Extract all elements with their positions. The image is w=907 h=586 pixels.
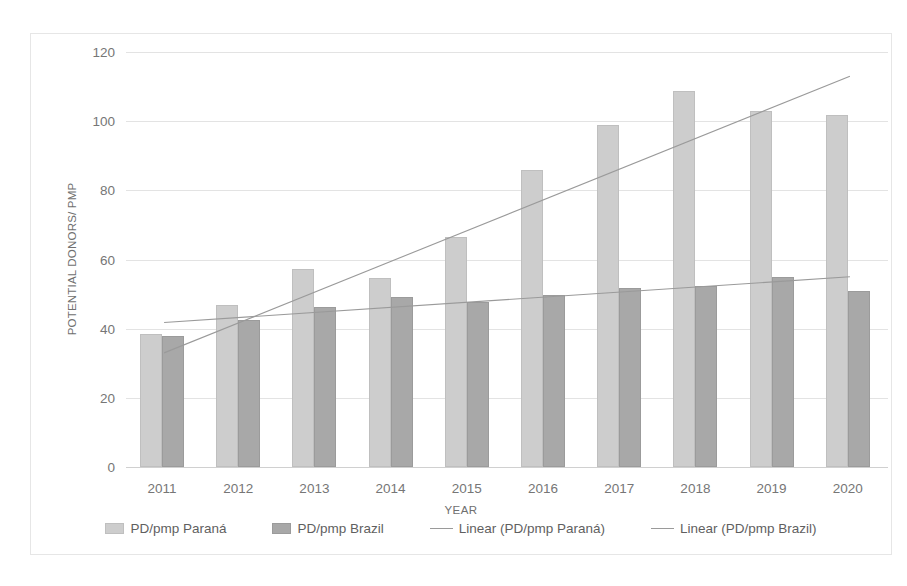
x-tick-label-2015: 2015 bbox=[452, 481, 482, 496]
y-tick-label-20: 20 bbox=[100, 390, 115, 405]
bar-brazil-2016[interactable] bbox=[543, 295, 565, 467]
x-tick-label-2014: 2014 bbox=[376, 481, 406, 496]
x-tick-label-2017: 2017 bbox=[604, 481, 634, 496]
y-tick-label-40: 40 bbox=[100, 321, 115, 336]
bar-brazil-2013[interactable] bbox=[314, 307, 336, 467]
plot-area: 020406080100120 201120122013201420152016… bbox=[126, 52, 888, 467]
bar-brazil-2011[interactable] bbox=[162, 336, 184, 467]
legend-label: Linear (PD/pmp Brazil) bbox=[680, 521, 817, 536]
bar-brazil-2019[interactable] bbox=[772, 277, 794, 467]
category-group-2015: 2015 bbox=[431, 52, 507, 467]
x-tick-label-2018: 2018 bbox=[680, 481, 710, 496]
category-group-2016: 2016 bbox=[507, 52, 583, 467]
bar-parana-2013[interactable] bbox=[292, 269, 314, 468]
bar-parana-2014[interactable] bbox=[369, 278, 391, 467]
bar-swatch-light-icon bbox=[105, 523, 124, 534]
x-tick-label-2019: 2019 bbox=[757, 481, 787, 496]
x-tick-label-2012: 2012 bbox=[223, 481, 253, 496]
chart-legend: PD/pmp ParanáPD/pmp BrazilLinear (PD/pmp… bbox=[31, 521, 891, 536]
bar-brazil-2014[interactable] bbox=[391, 297, 413, 467]
category-group-2020: 2020 bbox=[812, 52, 888, 467]
category-group-2012: 2012 bbox=[202, 52, 278, 467]
legend-label: Linear (PD/pmp Paraná) bbox=[459, 521, 605, 536]
bar-brazil-2015[interactable] bbox=[467, 302, 489, 467]
x-tick-label-2016: 2016 bbox=[528, 481, 558, 496]
bar-brazil-2020[interactable] bbox=[848, 291, 870, 467]
x-tick-label-2013: 2013 bbox=[299, 481, 329, 496]
category-group-2018: 2018 bbox=[659, 52, 735, 467]
x-tick-label-2011: 2011 bbox=[147, 481, 176, 496]
y-tick-label-80: 80 bbox=[100, 183, 115, 198]
legend-label: PD/pmp Paraná bbox=[130, 521, 226, 536]
y-tick-label-60: 60 bbox=[100, 252, 115, 267]
category-group-2019: 2019 bbox=[736, 52, 812, 467]
legend-item-3[interactable]: Linear (PD/pmp Brazil) bbox=[651, 521, 817, 536]
category-group-2013: 2013 bbox=[278, 52, 354, 467]
line-swatch-icon bbox=[651, 528, 674, 529]
x-tick-label-2020: 2020 bbox=[833, 481, 863, 496]
bar-brazil-2018[interactable] bbox=[695, 286, 717, 467]
y-tick-label-100: 100 bbox=[92, 114, 115, 129]
legend-item-0[interactable]: PD/pmp Paraná bbox=[105, 521, 226, 536]
category-group-2014: 2014 bbox=[355, 52, 431, 467]
chart-container: POTENTIAL DONORS/ PMP 020406080100120 20… bbox=[30, 33, 892, 555]
bar-parana-2019[interactable] bbox=[750, 111, 772, 467]
bar-brazil-2017[interactable] bbox=[619, 288, 641, 467]
bar-parana-2012[interactable] bbox=[216, 305, 238, 467]
bar-swatch-dark-icon bbox=[272, 523, 291, 534]
bar-parana-2016[interactable] bbox=[521, 170, 543, 467]
bar-parana-2015[interactable] bbox=[445, 237, 467, 467]
legend-item-1[interactable]: PD/pmp Brazil bbox=[272, 521, 383, 536]
x-axis-title: YEAR bbox=[31, 504, 891, 516]
gridline-0 bbox=[126, 467, 888, 468]
y-tick-label-0: 0 bbox=[107, 460, 115, 475]
legend-label: PD/pmp Brazil bbox=[297, 521, 383, 536]
category-group-2011: 2011 bbox=[126, 52, 202, 467]
bar-brazil-2012[interactable] bbox=[238, 320, 260, 467]
line-swatch-icon bbox=[430, 528, 453, 529]
bar-parana-2020[interactable] bbox=[826, 115, 848, 467]
bar-parana-2011[interactable] bbox=[140, 334, 162, 467]
category-group-2017: 2017 bbox=[583, 52, 659, 467]
bar-parana-2017[interactable] bbox=[597, 125, 619, 467]
y-tick-label-120: 120 bbox=[92, 45, 115, 60]
legend-item-2[interactable]: Linear (PD/pmp Paraná) bbox=[430, 521, 605, 536]
y-axis-title: POTENTIAL DONORS/ PMP bbox=[66, 183, 78, 336]
bar-parana-2018[interactable] bbox=[673, 91, 695, 467]
